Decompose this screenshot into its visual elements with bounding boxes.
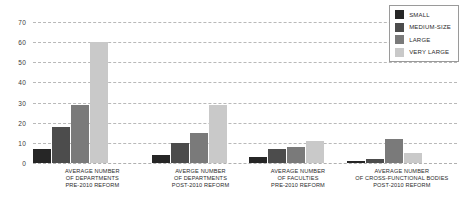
legend-swatch-icon [395, 35, 404, 44]
x-axis-label-line: AVERGE NUMBER [152, 168, 250, 175]
legend-label: VERY LARGE [409, 49, 449, 55]
y-axis-tick-label: 70 [18, 19, 26, 26]
x-axis-label-line: PRE-2010 REFORM [249, 182, 347, 189]
bar-group [33, 22, 152, 163]
x-axis-label: AVERAGE NUMBEROF FACULTIESPRE-2010 REFOR… [249, 166, 347, 206]
legend-item[interactable]: MEDIUM-SIZE [395, 23, 451, 32]
bar [404, 153, 422, 163]
bar [171, 143, 189, 163]
x-axis-label-line: AVERAGE NUMBER [33, 168, 152, 175]
bar-chart: 010203040506070 AVERAGE NUMBEROF DEPARTM… [0, 0, 464, 211]
y-axis-tick-label: 20 [18, 119, 26, 126]
x-axis-label: AVERGE NUMBEROF DEPARTMENTSPOST-2010 REF… [152, 166, 250, 206]
legend-label: SMALL [409, 12, 430, 18]
legend-swatch-icon [395, 10, 404, 19]
y-axis-tick-label: 30 [18, 99, 26, 106]
bar [71, 105, 89, 163]
y-axis-tick-label: 50 [18, 59, 26, 66]
legend-item[interactable]: SMALL [395, 10, 451, 19]
bar [90, 42, 108, 163]
x-axis-label-line: POST-2010 REFORM [347, 182, 457, 189]
bar-group [152, 22, 250, 163]
x-axis-label: AVERAGE NUMBEROF CROSS-FUNCTIONAL BODIES… [347, 166, 457, 206]
x-axis-label-line: PRE-2010 REFORM [33, 182, 152, 189]
bar [190, 133, 208, 163]
bar-group [249, 22, 347, 163]
x-axis-label: AVERAGE NUMBEROF DEPARTMENTSPRE-2010 REF… [33, 166, 152, 206]
x-axis-label-line: AVERAGE NUMBER [347, 168, 457, 175]
bar [249, 157, 267, 163]
legend-item[interactable]: VERY LARGE [395, 48, 451, 57]
bar [347, 161, 365, 163]
chart-legend: SMALLMEDIUM-SIZELARGEVERY LARGE [389, 5, 459, 62]
y-axis-tick-label: 10 [18, 139, 26, 146]
legend-label: LARGE [409, 37, 430, 43]
y-axis-tick-label: 40 [18, 79, 26, 86]
legend-swatch-icon [395, 48, 404, 57]
x-axis-label-line: OF CROSS-FUNCTIONAL BODIES [347, 175, 457, 182]
bar [52, 127, 70, 163]
bar [287, 147, 305, 163]
y-axis-tick-label: 60 [18, 39, 26, 46]
bar [152, 155, 170, 163]
legend-item[interactable]: LARGE [395, 35, 451, 44]
y-axis: 010203040506070 [0, 22, 30, 163]
gridline [33, 163, 457, 164]
y-axis-tick-label: 0 [22, 160, 26, 167]
bar [33, 149, 51, 163]
x-axis-label-line: OF FACULTIES [249, 175, 347, 182]
x-axis-label-line: OF DEPARTMENTS [152, 175, 250, 182]
bar [268, 149, 286, 163]
legend-label: MEDIUM-SIZE [409, 24, 451, 30]
legend-swatch-icon [395, 23, 404, 32]
bar [366, 159, 384, 163]
x-axis-label-line: POST-2010 REFORM [152, 182, 250, 189]
bar [209, 105, 227, 163]
x-axis-labels: AVERAGE NUMBEROF DEPARTMENTSPRE-2010 REF… [33, 166, 457, 206]
bar [385, 139, 403, 163]
x-axis-label-line: AVERAGE NUMBER [249, 168, 347, 175]
bar [306, 141, 324, 163]
x-axis-label-line: OF DEPARTMENTS [33, 175, 152, 182]
